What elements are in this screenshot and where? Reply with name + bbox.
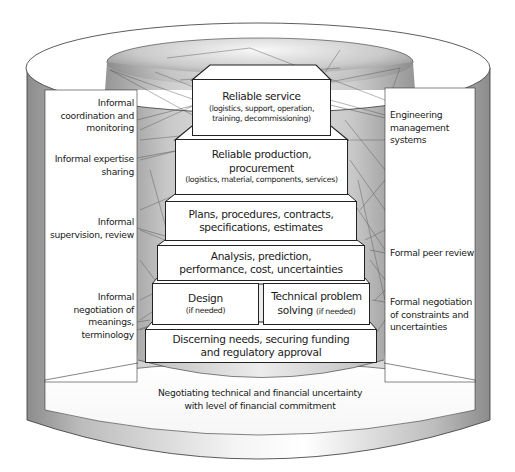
label-line: Formal peer review: [390, 247, 480, 260]
discerning-needs-box: Discerning needs, securing funding and r…: [145, 329, 377, 363]
label-informal-negotiation: Informal negotiation of meanings, termin…: [48, 291, 134, 341]
plans-line-2: specifications, estimates: [199, 221, 323, 235]
label-line: negotiation of: [48, 304, 134, 317]
plans-box: Plans, procedures, contracts, specificat…: [165, 201, 357, 241]
label-line: management: [390, 122, 475, 135]
needs-line-2: and regulatory approval: [201, 346, 322, 360]
tps-subtitle: (if needed): [316, 307, 355, 316]
reliable-production-subtitle: (logistics, material, components, servic…: [185, 175, 337, 186]
label-line: Informal: [48, 97, 134, 110]
label-informal-supervision: Informal supervision, review: [40, 216, 134, 241]
label-formal-negotiation: Formal negotiation of constraints and un…: [390, 296, 485, 334]
label-line: meanings,: [48, 316, 134, 329]
plans-line-1: Plans, procedures, contracts,: [189, 208, 334, 222]
label-base-negotiation: Negotiating technical and financial unce…: [140, 387, 380, 412]
label-line: Engineering: [390, 109, 475, 122]
label-line: supervision, review: [40, 229, 134, 242]
service-box-cap: [192, 65, 331, 80]
label-line: with level of financial commitment: [140, 400, 380, 413]
reliable-production-box: Reliable production, procurement (logist…: [175, 139, 348, 195]
design-title: Design: [188, 292, 223, 306]
label-line: monitoring: [48, 122, 134, 135]
label-line: Informal: [48, 291, 134, 304]
needs-line-1: Discerning needs, securing funding: [172, 333, 349, 347]
label-formal-peer-review: Formal peer review: [390, 247, 480, 260]
reliable-service-subtitle-2: training, decommissioning): [212, 114, 311, 125]
analysis-line-2: performance, cost, uncertainties: [179, 263, 342, 277]
label-line: uncertainties: [390, 321, 485, 334]
tps-title-2-row: solving (if needed): [278, 304, 356, 319]
design-subtitle: (if needed): [186, 306, 225, 317]
label-line: Informal expertise: [40, 153, 134, 166]
tps-title-1: Technical problem: [271, 290, 362, 304]
design-box: Design (if needed): [152, 283, 259, 325]
label-line: of constraints and: [390, 309, 485, 322]
analysis-box: Analysis, prediction, performance, cost,…: [157, 245, 365, 281]
label-line: coordination and: [48, 110, 134, 123]
reliable-production-title-1: Reliable production,: [212, 148, 312, 162]
reliable-service-subtitle-1: (logistics, support, operation,: [209, 104, 314, 115]
reliable-production-title-2: procurement: [229, 162, 294, 176]
label-informal-coordination: Informal coordination and monitoring: [48, 97, 134, 135]
reliable-service-box: Reliable service (logistics, support, op…: [192, 79, 331, 136]
label-line: Negotiating technical and financial unce…: [140, 387, 380, 400]
label-informal-expertise: Informal expertise sharing: [40, 153, 134, 178]
analysis-line-1: Analysis, prediction,: [211, 250, 312, 264]
label-engineering-management: Engineering management systems: [390, 109, 475, 147]
technical-problem-solving-box: Technical problem solving (if needed): [263, 283, 370, 325]
tps-title-2: solving: [278, 304, 314, 316]
label-line: terminology: [48, 329, 134, 342]
label-line: Informal: [40, 216, 134, 229]
reliable-service-title: Reliable service: [222, 90, 300, 104]
label-line: systems: [390, 134, 475, 147]
label-line: Formal negotiation: [390, 296, 485, 309]
label-line: sharing: [40, 166, 134, 179]
